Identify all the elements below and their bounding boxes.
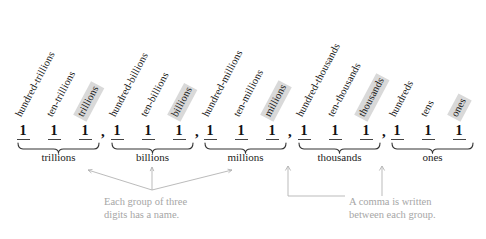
digit-cell: 1: [359, 124, 373, 140]
digit-underline: [235, 139, 248, 140]
digit-cell: 1: [390, 124, 404, 140]
digit-cell: 1: [16, 124, 30, 140]
arrow-to-millions-barb: [228, 170, 232, 173]
digit-value: 1: [363, 123, 370, 138]
digit-underline: [266, 139, 279, 140]
digit-cell: 1: [297, 124, 311, 140]
digit-cell: 1: [141, 124, 155, 140]
digit-underline: [17, 139, 30, 140]
digit-underline: [204, 139, 217, 140]
digit-cell: 1: [328, 124, 342, 140]
annotation-line-2: between each group.: [349, 209, 436, 222]
digit-cell: 1: [172, 124, 186, 140]
annotation-line-2: digits has a name.: [104, 209, 187, 222]
digit-value: 1: [425, 123, 432, 138]
digit-underline: [79, 139, 92, 140]
digit-value: 1: [269, 123, 276, 138]
arrow-to-trillions: [88, 170, 152, 190]
digit-underline: [173, 139, 186, 140]
annotation-line-1: A comma is written: [349, 196, 436, 209]
digit-value: 1: [114, 123, 121, 138]
digit-cell: 1: [47, 124, 61, 140]
digit-cell: 1: [78, 124, 92, 140]
digit-underline: [48, 139, 61, 140]
place-label-ones: ones: [447, 94, 471, 122]
place-label-billions: billions: [167, 83, 197, 122]
place-value-chart: hundred-trillionsten-trillionstrillionsh…: [0, 0, 486, 239]
digit-cell: 1: [265, 124, 279, 140]
digit-value: 1: [207, 123, 214, 138]
arrow-to-trillions-barb: [88, 169, 92, 170]
comma-separator: ,: [101, 124, 105, 138]
annotation-comma-note: A comma is writtenbetween each group.: [349, 196, 436, 221]
group-name-ones: ones: [392, 151, 473, 164]
annotation-line-1: Each group of three: [104, 196, 187, 209]
digit-cell: 1: [234, 124, 248, 140]
arrow-to-millions-barb: [228, 169, 232, 170]
digit-underline: [391, 139, 404, 140]
digit-value: 1: [82, 123, 89, 138]
digit-value: 1: [301, 123, 308, 138]
group-name-thousands: thousands: [299, 151, 380, 164]
digit-value: 1: [51, 123, 58, 138]
comma-separator: ,: [288, 124, 292, 138]
digit-underline: [453, 139, 466, 140]
digit-cell: 1: [421, 124, 435, 140]
arrow-to-billions-barb: [152, 167, 154, 171]
digit-underline: [111, 139, 124, 140]
comma-leader-barb: [288, 166, 291, 171]
place-label-hundreds: hundreds: [385, 76, 418, 121]
place-label-millions: millions: [260, 80, 291, 121]
comma-separator: ,: [195, 124, 199, 138]
arrow-to-trillions-barb: [88, 170, 91, 173]
arrow-to-billions-barb: [150, 167, 152, 171]
annotation-group-name-note: Each group of threedigits has a name.: [104, 196, 187, 221]
digit-value: 1: [332, 123, 339, 138]
comma-separator: ,: [382, 124, 386, 138]
place-label-tens: tens: [416, 96, 439, 122]
digit-value: 1: [238, 123, 245, 138]
group-name-trillions: trillions: [18, 151, 99, 164]
digit-underline: [422, 139, 435, 140]
digit-value: 1: [145, 123, 152, 138]
comma-leader-barb: [382, 166, 385, 171]
digit-underline: [329, 139, 342, 140]
place-label-thousands: thousands: [354, 73, 389, 121]
digit-cell: 1: [110, 124, 124, 140]
group-name-millions: millions: [205, 151, 286, 164]
digit-value: 1: [20, 123, 27, 138]
digit-value: 1: [176, 123, 183, 138]
digit-cell: 1: [452, 124, 466, 140]
digit-value: 1: [394, 123, 401, 138]
digit-underline: [360, 139, 373, 140]
digit-underline: [142, 139, 155, 140]
digit-value: 1: [456, 123, 463, 138]
digit-underline: [298, 139, 311, 140]
arrow-to-millions: [152, 170, 232, 190]
comma-leader-barb: [379, 166, 382, 171]
comma-leader-barb: [285, 166, 288, 171]
place-label-trillions: trillions: [73, 82, 103, 122]
digit-cell: 1: [203, 124, 217, 140]
group-name-billions: billions: [112, 151, 193, 164]
